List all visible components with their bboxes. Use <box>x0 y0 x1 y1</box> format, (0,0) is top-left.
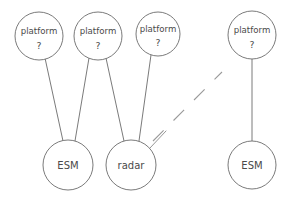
node-label: ESM <box>241 160 262 171</box>
node-esm2[interactable]: ESM <box>228 141 276 189</box>
node-esm1[interactable]: ESM <box>43 140 93 190</box>
node-label-line2: ? <box>37 40 42 51</box>
node-label-line1: platform <box>21 26 58 36</box>
node-platform3[interactable]: platform ? <box>136 12 180 56</box>
edge-platform2-esm1[interactable] <box>75 58 89 141</box>
node-radar1[interactable]: radar <box>106 140 156 190</box>
dashed-break-line-icon <box>153 72 222 141</box>
node-circle[interactable] <box>15 12 63 60</box>
node-label-line1: platform <box>80 26 117 36</box>
node-platform4[interactable]: platform ? <box>228 11 276 59</box>
node-label-line2: ? <box>156 37 161 48</box>
edge-platform3-radar1[interactable] <box>139 55 151 141</box>
diagram-canvas: platform ? platform ? platform ? platfor… <box>0 0 290 197</box>
node-label: radar <box>118 160 146 171</box>
node-circle[interactable] <box>228 11 276 59</box>
node-platform2[interactable]: platform ? <box>74 12 122 60</box>
break-indicator-group <box>153 72 222 141</box>
node-label-line2: ? <box>250 39 255 50</box>
node-platform1[interactable]: platform ? <box>15 12 63 60</box>
node-label-line2: ? <box>96 40 101 51</box>
edge-platform1-esm1[interactable] <box>45 58 63 141</box>
edge-group <box>45 55 252 148</box>
node-circle[interactable] <box>136 12 180 56</box>
node-label: ESM <box>57 160 78 171</box>
node-link-diagram: platform ? platform ? platform ? platfor… <box>0 0 290 197</box>
edge-platform2-radar1[interactable] <box>106 58 124 141</box>
node-label-line1: platform <box>140 24 177 34</box>
node-label-line1: platform <box>234 25 271 35</box>
node-circle[interactable] <box>74 12 122 60</box>
edge-stub-radar1-continuation[interactable] <box>150 131 166 148</box>
